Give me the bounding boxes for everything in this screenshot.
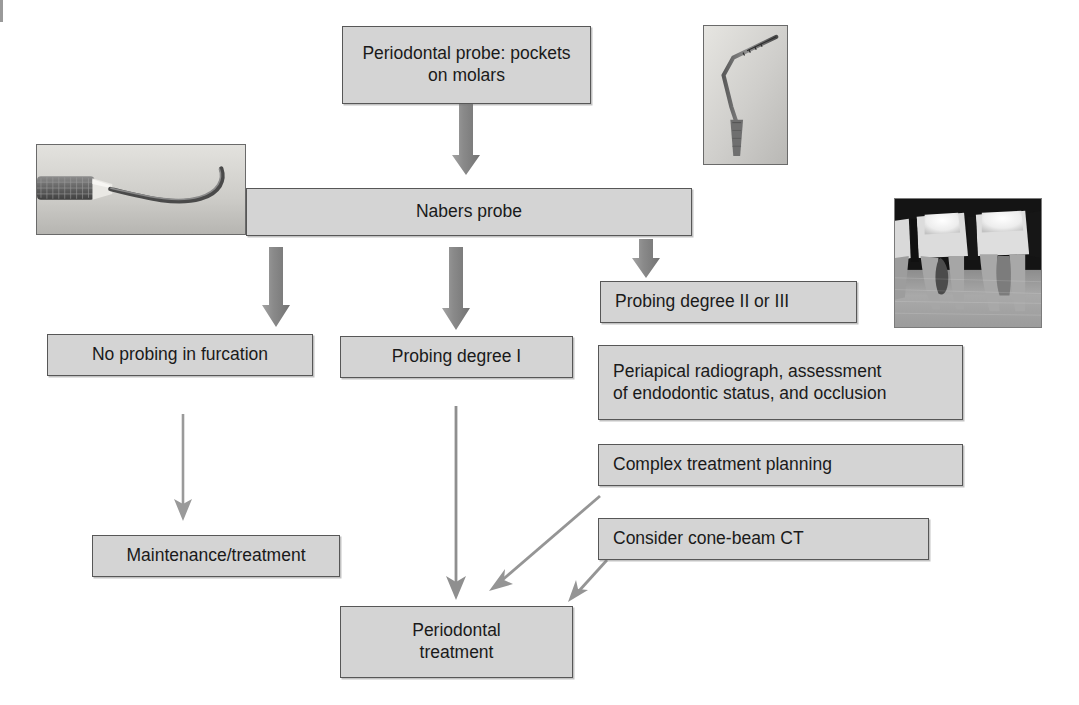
- node-complex-treatment-planning[interactable]: Complex treatment planning: [598, 444, 963, 486]
- arrow-no-probing-to-maintenance: [174, 414, 192, 521]
- node-label: Periodontal probe: pockets on molars: [343, 43, 590, 87]
- arrow-cone-beam-to-perio-treatment: [568, 560, 607, 602]
- arrow-complex-plan-to-perio-treatment: [489, 496, 600, 591]
- page-edge-rule: [0, 0, 3, 22]
- node-label: Consider cone-beam CT: [613, 528, 928, 550]
- node-label: Maintenance/treatment: [93, 545, 339, 567]
- node-probing-degree-two-three[interactable]: Probing degree II or III: [600, 281, 857, 323]
- node-label: Periodontal treatment: [341, 620, 572, 664]
- node-nabers-probe[interactable]: Nabers probe: [246, 188, 692, 236]
- arrow-nabers-to-degree-one: [442, 247, 470, 330]
- node-periodontal-probe[interactable]: Periodontal probe: pockets on molars: [342, 26, 591, 104]
- node-label: Nabers probe: [247, 201, 691, 223]
- node-label: Complex treatment planning: [613, 454, 962, 476]
- node-periapical-radiograph[interactable]: Periapical radiograph, assessment of end…: [598, 345, 963, 420]
- node-maintenance-treatment[interactable]: Maintenance/treatment: [92, 535, 340, 577]
- arrow-probe-to-nabers: [452, 104, 480, 175]
- flowchart-canvas: Periodontal probe: pockets on molars Nab…: [0, 0, 1079, 705]
- arrow-nabers-to-degree-two-three: [632, 239, 660, 278]
- arrow-degree-one-to-perio-treatment: [446, 406, 466, 600]
- node-label: Probing degree II or III: [615, 291, 856, 313]
- node-consider-cone-beam-ct[interactable]: Consider cone-beam CT: [598, 518, 929, 560]
- nabers-probe-photo: [36, 144, 246, 235]
- node-no-probing-in-furcation[interactable]: No probing in furcation: [47, 334, 313, 376]
- node-label: Periapical radiograph, assessment of end…: [613, 361, 962, 405]
- arrow-nabers-to-no-probing: [262, 247, 290, 327]
- node-probing-degree-one[interactable]: Probing degree I: [340, 336, 573, 378]
- periodontal-probe-photo: [703, 25, 788, 165]
- node-label: Probing degree I: [341, 346, 572, 368]
- node-label: No probing in furcation: [48, 344, 312, 366]
- radiograph-photo: [894, 198, 1042, 328]
- node-periodontal-treatment[interactable]: Periodontal treatment: [340, 606, 573, 678]
